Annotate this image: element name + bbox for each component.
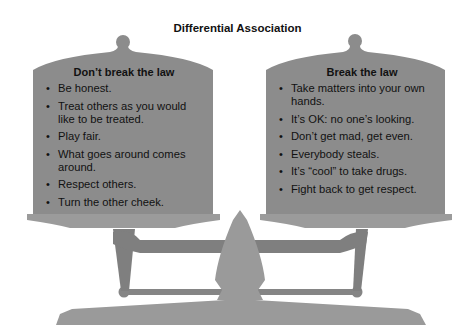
list-item: What goes around comes around.	[44, 148, 204, 174]
right-pan-list: Take matters into your own hands. It’s O…	[277, 82, 447, 196]
list-item: Turn the other cheek.	[44, 196, 204, 209]
list-item: Be honest.	[44, 82, 204, 95]
list-item: Take matters into your own hands.	[277, 82, 447, 108]
left-pan-content: Don’t break the law Be honest. Treat oth…	[44, 66, 204, 214]
right-pan-heading: Break the law	[277, 66, 447, 79]
list-item: Respect others.	[44, 178, 204, 191]
list-item: It’s OK: no one’s looking.	[277, 113, 447, 126]
list-item: Treat others as you would like to be tre…	[44, 100, 204, 126]
list-item: Play fair.	[44, 130, 204, 143]
list-item: Everybody steals.	[277, 148, 447, 161]
list-item: It’s “cool” to take drugs.	[277, 165, 447, 178]
list-item: Don’t get mad, get even.	[277, 130, 447, 143]
diagram-title: Differential Association	[0, 22, 475, 34]
scale-post	[215, 210, 265, 300]
left-pan-list: Be honest. Treat others as you would lik…	[44, 82, 204, 209]
right-pan-content: Break the law Take matters into your own…	[277, 66, 447, 201]
list-item: Fight back to get respect.	[277, 183, 447, 196]
left-pan-heading: Don’t break the law	[44, 66, 204, 79]
scale-base	[56, 300, 426, 325]
